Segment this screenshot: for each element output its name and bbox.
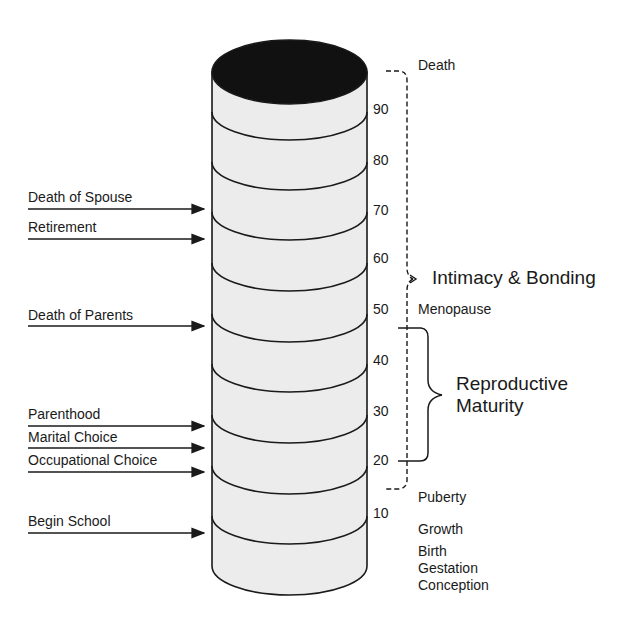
cylinder-top [212, 40, 367, 104]
age-20: 20 [373, 452, 389, 468]
age-60: 60 [373, 250, 389, 266]
milestone-death: Death [418, 57, 455, 73]
span-reproductive-line1: Reproductive [456, 373, 568, 395]
span-reproductive-line2: Maturity [456, 395, 524, 417]
event-parenthood: Parenthood [28, 406, 100, 422]
cylinder [212, 40, 367, 595]
age-50: 50 [373, 301, 389, 317]
event-occupational-choice: Occupational Choice [28, 452, 157, 468]
age-90: 90 [373, 101, 389, 117]
age-10: 10 [373, 505, 389, 521]
age-80: 80 [373, 152, 389, 168]
event-begin-school: Begin School [28, 513, 111, 529]
event-death-of-spouse: Death of Spouse [28, 189, 132, 205]
milestone-birth: Birth [418, 543, 447, 559]
age-40: 40 [373, 352, 389, 368]
span-intimacy-bonding: Intimacy & Bonding [432, 267, 596, 289]
age-70: 70 [373, 202, 389, 218]
milestone-conception: Conception [418, 577, 489, 593]
event-marital-choice: Marital Choice [28, 429, 117, 445]
event-retirement: Retirement [28, 219, 96, 235]
intimacy-brace [385, 71, 413, 489]
event-death-of-parents: Death of Parents [28, 307, 133, 323]
reproductive-brace [398, 328, 442, 461]
milestone-gestation: Gestation [418, 560, 478, 576]
age-30: 30 [373, 403, 389, 419]
event-arrows [28, 209, 204, 533]
milestone-menopause: Menopause [418, 301, 491, 317]
milestone-growth: Growth [418, 521, 463, 537]
milestone-puberty: Puberty [418, 489, 466, 505]
